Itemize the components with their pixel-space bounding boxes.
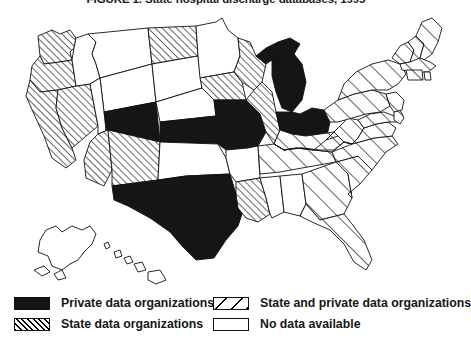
figure-title: FIGURE 1. State hospital discharge datab… xyxy=(0,0,452,7)
state-AL xyxy=(280,174,306,216)
legend-swatch-sparse-hatch-icon xyxy=(213,297,249,310)
legend-item-state: State data organizations xyxy=(14,314,203,334)
legend-swatch-dense-hatch-icon xyxy=(14,318,50,331)
state-CT xyxy=(406,70,423,80)
state-TX xyxy=(112,174,244,260)
state-WA xyxy=(38,30,76,64)
us-choropleth-map xyxy=(0,8,452,288)
state-RI xyxy=(424,72,431,80)
legend-swatch-empty-white-icon xyxy=(213,318,249,331)
legend-label-no-data: No data available xyxy=(260,318,360,330)
state-AK xyxy=(34,226,96,280)
legend-item-private: Private data organizations xyxy=(14,293,214,313)
state-MN xyxy=(196,18,240,78)
map-legend: Private data organizations State data or… xyxy=(0,292,452,338)
legend-label-state: State data organizations xyxy=(61,318,203,330)
legend-swatch-solid-black-icon xyxy=(14,297,50,310)
state-NJ xyxy=(386,92,404,112)
legend-label-state-and-private: State and private data organizations xyxy=(260,297,471,309)
legend-item-state-and-private: State and private data organizations xyxy=(213,293,471,313)
map-svg xyxy=(0,8,452,288)
legend-item-no-data: No data available xyxy=(213,314,360,334)
state-HI xyxy=(104,242,166,284)
legend-label-private: Private data organizations xyxy=(61,297,214,309)
state-AZ xyxy=(84,130,112,186)
